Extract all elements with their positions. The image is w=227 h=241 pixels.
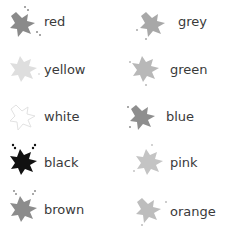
color-label: grey xyxy=(178,14,207,30)
color-label: black xyxy=(44,155,79,171)
splat-icon xyxy=(132,143,168,179)
color-item-blue: blue xyxy=(126,97,227,137)
color-item-grey: grey xyxy=(136,4,227,44)
color-item-black: black xyxy=(6,143,116,183)
color-label: green xyxy=(170,62,208,78)
color-item-red: red xyxy=(6,4,116,44)
color-label: orange xyxy=(170,204,216,220)
color-item-orange: orange xyxy=(132,190,227,230)
splat-icon xyxy=(128,50,164,86)
splat-icon xyxy=(132,190,168,226)
splat-icon xyxy=(6,50,42,86)
color-item-brown: brown xyxy=(6,190,116,230)
color-label: red xyxy=(44,14,65,30)
color-label: brown xyxy=(44,202,84,218)
color-label: white xyxy=(44,109,80,125)
color-label: yellow xyxy=(44,62,86,78)
splat-icon xyxy=(6,190,42,226)
color-item-yellow: yellow xyxy=(6,50,116,90)
splat-icon xyxy=(6,4,42,40)
color-label: blue xyxy=(166,109,194,125)
splat-icon xyxy=(136,4,172,40)
color-item-green: green xyxy=(128,50,227,90)
color-item-white: white xyxy=(6,97,116,137)
splat-icon xyxy=(6,143,42,179)
color-label: pink xyxy=(170,155,198,171)
color-item-pink: pink xyxy=(132,143,227,183)
splat-icon xyxy=(6,97,42,133)
splat-icon xyxy=(126,97,162,133)
